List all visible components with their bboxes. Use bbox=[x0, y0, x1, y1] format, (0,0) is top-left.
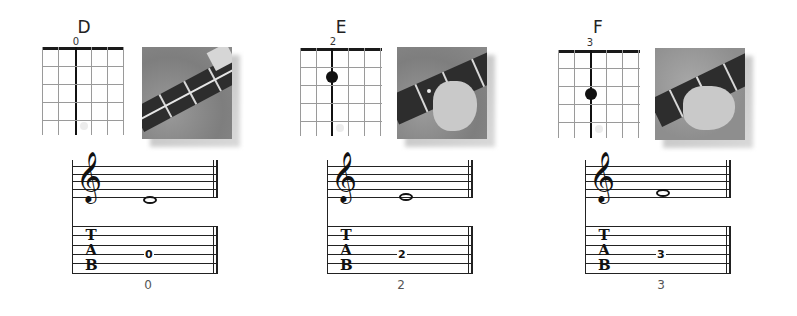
tab-clef-b: B bbox=[340, 258, 352, 273]
nut bbox=[300, 48, 382, 51]
tablature: T A B 3 bbox=[585, 226, 731, 273]
root-string bbox=[331, 48, 333, 136]
treble-clef-icon: 𝄞 bbox=[331, 154, 357, 198]
music-staff: 𝄞 bbox=[585, 160, 731, 198]
fret-marker-icon bbox=[336, 124, 344, 132]
tablature: T A B 2 bbox=[327, 226, 473, 273]
caption: 3 bbox=[651, 278, 671, 292]
treble-clef-icon: 𝄞 bbox=[589, 154, 615, 198]
note-f bbox=[656, 189, 670, 197]
lesson-f: F 3 𝄞 T A B 3 bbox=[0, 0, 260, 316]
fret-number: 2 bbox=[326, 36, 340, 47]
guitar-photo bbox=[655, 48, 755, 152]
chord-name: F bbox=[583, 17, 613, 37]
guitar-photo bbox=[397, 47, 497, 151]
fret-number: 3 bbox=[583, 37, 597, 48]
finger-dot-icon bbox=[585, 88, 597, 100]
tab-fret-number: 2 bbox=[397, 249, 407, 260]
note-e bbox=[399, 193, 413, 201]
caption: 2 bbox=[391, 278, 411, 292]
tab-clef-b: B bbox=[598, 258, 610, 273]
chord-diagram bbox=[300, 48, 382, 136]
tab-fret-number: 3 bbox=[656, 249, 666, 260]
finger-dot-icon bbox=[326, 71, 338, 83]
chord-name: E bbox=[326, 17, 356, 37]
fret-marker-icon bbox=[595, 125, 603, 133]
chord-diagram bbox=[558, 50, 640, 138]
music-staff: 𝄞 bbox=[327, 160, 473, 198]
nut bbox=[558, 50, 640, 53]
